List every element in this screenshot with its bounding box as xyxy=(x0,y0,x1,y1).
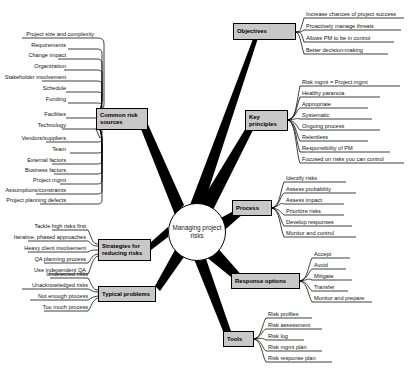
link-objectives xyxy=(296,30,401,32)
branch-objectives[interactable]: Objectives xyxy=(233,23,296,40)
leaf-tools-2: Risk log xyxy=(268,333,288,340)
leaf-objectives-1: Proactively manage threats xyxy=(306,23,374,30)
leaf-key-principles-3: Systematic xyxy=(302,112,329,119)
leaf-key-principles-5: Relentless xyxy=(302,134,328,141)
link-typical-problems xyxy=(22,289,98,292)
leaf-typical-problems-1: Unacknowledged risks xyxy=(32,282,88,289)
leaf-response-options-1: Avoid xyxy=(314,262,328,269)
center-node[interactable]: Managing project risks xyxy=(168,203,226,261)
link-common-risk-sources xyxy=(60,130,102,184)
spoke-common-risk-sources xyxy=(139,120,184,215)
branch-common-risk-sources[interactable]: Common risk sources xyxy=(96,108,148,130)
branch-key-principles-label: Key principles xyxy=(249,114,284,128)
leaf-key-principles-0: Risk mgmt = Project mgmt xyxy=(302,79,368,86)
leaf-strategies-2: Heavy client involvement xyxy=(24,245,86,252)
branch-strategies-for-reducing-risks[interactable]: Strategies for reducing risks xyxy=(98,239,151,261)
link-tools xyxy=(254,329,322,339)
leaf-common-risk-sources-14: Assumptions/constraints xyxy=(5,187,66,194)
leaf-response-options-0: Accept xyxy=(314,251,331,258)
leaf-common-risk-sources-13: Project mgmt xyxy=(33,177,66,184)
branch-typical-problems[interactable]: Typical problems xyxy=(98,286,156,302)
leaf-objectives-0: Increase chances of project success xyxy=(306,11,396,18)
leaf-process-2: Assess impact xyxy=(286,197,322,204)
leaf-key-principles-2: Appropriate xyxy=(302,101,331,108)
leaf-response-options-3: Transfer xyxy=(314,284,335,291)
leaf-process-0: Identify risks xyxy=(286,175,317,182)
leaf-tools-4: Risk response plan xyxy=(268,355,316,362)
link-common-risk-sources xyxy=(68,49,102,110)
leaf-process-4: Develop responses xyxy=(286,219,334,226)
leaf-key-principles-1: Healthy paranoia xyxy=(302,90,344,97)
leaf-key-principles-7: Focused on risks you can control xyxy=(302,156,384,163)
leaf-key-principles-4: Ongoing process xyxy=(302,123,344,130)
leaf-common-risk-sources-10: Team xyxy=(52,146,66,153)
leaf-typical-problems-2: Not enough process xyxy=(38,293,88,300)
branch-strategies-for-reducing-risks-label: Strategies for reducing risks xyxy=(102,243,147,257)
branch-typical-problems-label: Typical problems xyxy=(102,291,150,298)
leaf-common-risk-sources-12: Business factors xyxy=(25,167,66,174)
branch-objectives-label: Objectives xyxy=(237,28,267,35)
leaf-strategies-1: Iterative, phased approaches xyxy=(14,234,86,241)
branch-tools[interactable]: Tools xyxy=(223,331,254,347)
branch-key-principles[interactable]: Key principles xyxy=(245,110,288,131)
leaf-common-risk-sources-4: Stakeholder involvement xyxy=(5,74,66,81)
leaf-response-options-4: Monitor and prepare xyxy=(314,295,364,302)
leaf-common-risk-sources-2: Change impact xyxy=(28,52,66,59)
leaf-common-risk-sources-7: Facilities xyxy=(44,111,66,118)
link-common-risk-sources xyxy=(70,130,102,153)
leaf-tools-0: Risk profiles xyxy=(268,311,298,318)
leaf-objectives-2: Allows PM to be in control xyxy=(306,35,370,42)
leaf-common-risk-sources-9: Vendors/suppliers xyxy=(22,135,66,142)
link-common-risk-sources xyxy=(64,70,102,110)
branch-common-risk-sources-label: Common risk sources xyxy=(100,112,144,126)
leaf-strategies-0: Tackle high risks first xyxy=(34,223,86,230)
mind-map-canvas: Managing project risks Objectives Increa… xyxy=(0,0,414,386)
leaf-common-risk-sources-0: Project size and complexity xyxy=(26,31,94,38)
leaf-objectives-3: Better decision-making xyxy=(306,47,363,54)
leaf-common-risk-sources-5: Schedule xyxy=(43,85,66,92)
leaf-common-risk-sources-8: Technology xyxy=(38,122,66,129)
leaf-common-risk-sources-6: Funding xyxy=(46,96,66,103)
leaf-common-risk-sources-1: Requirements xyxy=(31,42,66,49)
leaf-tools-1: Risk assessment xyxy=(268,322,310,329)
branch-process-label: Process xyxy=(236,205,259,212)
leaf-common-risk-sources-15: Project planning defects xyxy=(6,197,66,204)
leaf-typical-problems-3: Too much process xyxy=(43,304,88,311)
branch-tools-label: Tools xyxy=(227,336,242,343)
branch-response-options-label: Response options xyxy=(235,278,286,285)
leaf-common-risk-sources-11: External factors xyxy=(27,157,66,164)
branch-process[interactable]: Process xyxy=(232,200,272,216)
leaf-process-1: Assess probability xyxy=(286,186,331,193)
center-node-label: Managing project risks xyxy=(169,224,225,239)
link-key-principles xyxy=(288,119,372,120)
leaf-strategies-3: QA planning process xyxy=(34,256,86,263)
leaf-tools-3: Risk mgmt plan xyxy=(268,344,307,351)
leaf-key-principles-6: Responsibility of PM xyxy=(302,145,353,152)
spoke-strategies xyxy=(150,227,168,250)
leaf-response-options-2: Mitigate xyxy=(314,273,334,280)
leaf-process-3: Prioritize risks xyxy=(286,208,321,215)
branch-response-options[interactable]: Response options xyxy=(231,273,300,289)
leaf-typical-problems-0: Undetected risks xyxy=(46,271,88,278)
leaf-process-5: Monitor and control xyxy=(286,230,334,237)
leaf-common-risk-sources-3: Organization xyxy=(34,63,66,70)
